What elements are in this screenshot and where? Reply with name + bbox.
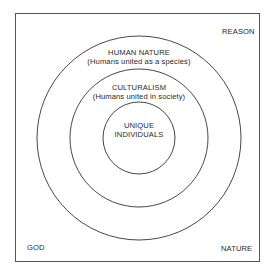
label-culturalism-sub: (Humans united in society) — [93, 92, 186, 101]
label-nature: NATURE — [221, 244, 252, 253]
label-individuals: INDIVIDUALS — [115, 130, 164, 139]
label-human-nature: HUMAN NATURE — [108, 48, 170, 57]
label-reason: REASON — [222, 27, 255, 36]
label-unique: UNIQUE — [124, 121, 154, 130]
label-human-nature-sub: (Humans united as a species) — [87, 57, 190, 66]
label-culturalism: CULTURALISM — [112, 83, 166, 92]
label-god: GOD — [27, 243, 45, 252]
